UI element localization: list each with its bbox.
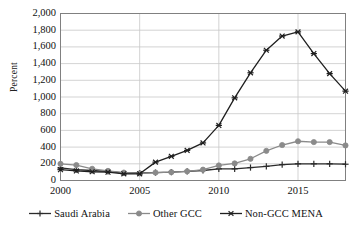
data-point-circle [136, 210, 141, 215]
legend-label: Non-GCC MENA [245, 208, 323, 219]
chart-legend: Saudi ArabiaOther GCCNon-GCC MENA [0, 203, 351, 223]
x-axis-tick-label: 2015 [278, 185, 318, 196]
chart-container: Percent 02004006008001,0001,2001,4001,60… [0, 0, 351, 227]
legend-item-saudi-arabia[interactable]: Saudi Arabia [28, 208, 110, 219]
legend-marker-plus-icon [28, 208, 52, 219]
x-axis-tick-label: 2010 [199, 185, 239, 196]
legend-label: Other GCC [153, 208, 202, 219]
legend-label: Saudi Arabia [54, 208, 110, 219]
x-axis-tick-label: 2000 [41, 185, 81, 196]
legend-item-non-gcc-mena[interactable]: Non-GCC MENA [219, 208, 323, 219]
x-axis-tick-label: 2005 [120, 185, 160, 196]
legend-marker-asterisk-icon [219, 208, 243, 219]
x-axis-tick-labels: 2000200520102015 [0, 0, 351, 227]
legend-marker-circle-icon [127, 208, 151, 219]
data-point-plus [37, 210, 43, 216]
legend-item-other-gcc[interactable]: Other GCC [127, 208, 202, 219]
data-point-asterisk [228, 211, 234, 216]
